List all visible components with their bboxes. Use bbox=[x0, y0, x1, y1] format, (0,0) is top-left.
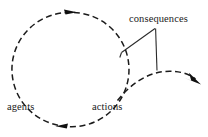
cycle-top-arrowhead-icon bbox=[64, 10, 77, 15]
leader-line-to-circle bbox=[122, 29, 156, 53]
label-actions: actions bbox=[92, 101, 122, 112]
label-agents: agents bbox=[7, 101, 34, 112]
leader-tick-circle bbox=[120, 53, 122, 58]
leader-line-to-curve bbox=[156, 29, 157, 71]
cycle-bottom-arrowhead-icon bbox=[56, 123, 69, 128]
label-consequences: consequences bbox=[129, 13, 188, 24]
consequence-outgoing-curve bbox=[118, 71, 196, 100]
diagram-canvas: consequences agents actions bbox=[0, 0, 208, 137]
